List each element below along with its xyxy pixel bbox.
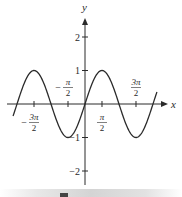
fraction-denominator: 2	[100, 123, 105, 133]
axes	[7, 18, 168, 185]
sine-graph: 21−1−23π2−π2−π23π2 x y	[0, 0, 182, 197]
fraction-numerator: π	[100, 112, 105, 122]
y-axis-label: y	[81, 1, 87, 13]
y-tick-label: 1	[75, 65, 80, 76]
fraction-numerator: 3π	[130, 77, 141, 87]
fraction-sign: −	[21, 117, 27, 128]
y-tick-label: −1	[69, 132, 80, 143]
figure-caption-band	[0, 189, 182, 197]
fraction-numerator: π	[66, 77, 71, 87]
x-tick-label: π2	[97, 112, 107, 133]
figure-caption-fragment	[60, 193, 68, 197]
fraction-denominator: 2	[66, 88, 71, 98]
x-tick-label: 3π2−	[21, 112, 39, 133]
fraction-denominator: 2	[134, 88, 139, 98]
y-tick-label: −2	[69, 166, 80, 177]
x-axis-arrow-icon	[161, 101, 168, 107]
x-tick-label: π2−	[55, 77, 73, 98]
fraction-sign: −	[55, 82, 61, 93]
x-axis-label: x	[170, 98, 176, 110]
fraction-numerator: 3π	[29, 112, 40, 122]
y-axis-arrow-icon	[82, 18, 88, 25]
x-tick-label: 3π2	[130, 77, 141, 98]
fraction-denominator: 2	[32, 123, 37, 133]
y-tick-label: 2	[75, 32, 80, 43]
